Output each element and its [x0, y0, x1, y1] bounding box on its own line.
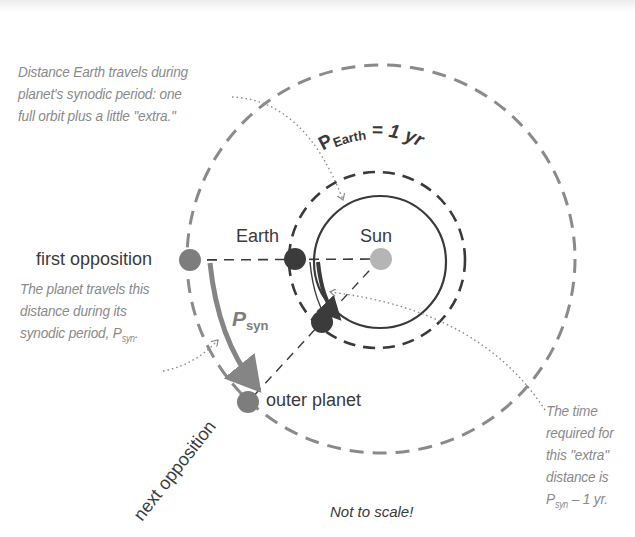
outer-orbit-label: Porb = planet's orbital period: [241, 0, 508, 3]
earth-orbit-label: PEarth = 1 yr: [315, 119, 429, 154]
note-planet-distance: The planet travels this distance during …: [20, 278, 149, 350]
earth-first: [284, 248, 306, 270]
not-to-scale-note: Not to scale!: [330, 503, 413, 520]
sun: [370, 248, 392, 270]
note-earth-distance: Distance Earth travels during planet's s…: [18, 61, 188, 127]
first-opposition-label: first opposition: [36, 249, 152, 270]
leader-extra-time: [330, 292, 545, 410]
outer-planet-label: outer planet: [266, 390, 361, 411]
next-opposition-label: next opposition: [129, 417, 219, 525]
outer-planet: [237, 391, 259, 413]
planet-first-opposition: [179, 249, 201, 271]
earth-second: [311, 311, 333, 333]
sun-label: Sun: [360, 226, 392, 247]
leader-planet-distance: [163, 340, 218, 371]
psyn-label: Psyn: [232, 307, 268, 333]
earth-label: Earth: [236, 226, 279, 247]
note-extra-time: The time required for this "extra" dista…: [546, 400, 614, 516]
